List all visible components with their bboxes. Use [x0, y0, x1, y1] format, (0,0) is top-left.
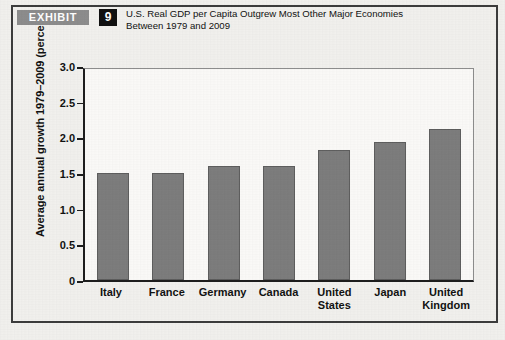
y-tick-label: 0.5 — [49, 240, 75, 251]
y-tick-label: 2.5 — [49, 98, 75, 109]
y-tick-label: 0 — [49, 276, 75, 287]
bar-france — [152, 173, 184, 280]
x-tick-label: Italy — [83, 286, 139, 299]
exhibit-number-badge: 9 — [99, 9, 117, 26]
x-tick-label: Germany — [195, 286, 251, 299]
y-tick-label: 1.0 — [49, 205, 75, 216]
frame-border-right — [496, 5, 498, 323]
exhibit-badge: EXHIBIT — [17, 10, 89, 25]
exhibit-header: EXHIBIT 9 U.S. Real GDP per Capita Outgr… — [13, 8, 493, 40]
bar-japan — [374, 142, 406, 280]
exhibit-figure: EXHIBIT 9 U.S. Real GDP per Capita Outgr… — [0, 0, 505, 340]
bar-canada — [263, 166, 295, 280]
frame-border-bottom — [11, 321, 498, 323]
x-tick-label: United Kingdom — [418, 286, 474, 312]
y-tick-label: 1.5 — [49, 169, 75, 180]
x-tick-label: France — [139, 286, 195, 299]
bar-series — [85, 69, 473, 280]
page-title: U.S. Real GDP per Capita Outgrew Most Ot… — [126, 8, 494, 33]
frame-border-top — [11, 5, 498, 7]
x-tick-label: Canada — [251, 286, 307, 299]
bar-united-kingdom — [429, 129, 461, 280]
x-tick-label: Japan — [362, 286, 418, 299]
title-line-1: U.S. Real GDP per Capita Outgrew Most Ot… — [126, 8, 403, 19]
y-tick-label: 3.0 — [49, 62, 75, 73]
plot-area — [83, 68, 474, 282]
bar-italy — [97, 173, 129, 280]
bar-germany — [208, 166, 240, 280]
x-tick-label: United States — [306, 286, 362, 312]
title-line-2: Between 1979 and 2009 — [126, 20, 230, 31]
bar-chart: Average annual growth 1979–2009 (percent… — [13, 42, 495, 320]
x-axis-labels: ItalyFranceGermanyCanadaUnited StatesJap… — [83, 286, 474, 312]
y-axis-label: Average annual growth 1979–2009 (percent… — [34, 25, 46, 237]
bar-united-states — [318, 150, 350, 280]
y-tick-label: 2.0 — [49, 133, 75, 144]
